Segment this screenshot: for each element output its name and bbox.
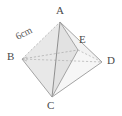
vertex-label-d: D (107, 55, 115, 66)
vertex-label-a: A (56, 5, 64, 16)
geometry-figure: A B C D E 6cm (0, 0, 122, 116)
vertex-label-c: C (47, 100, 54, 111)
vertex-label-e: E (79, 34, 86, 45)
vertex-label-b: B (7, 51, 14, 62)
octahedron-drawing (0, 0, 122, 116)
